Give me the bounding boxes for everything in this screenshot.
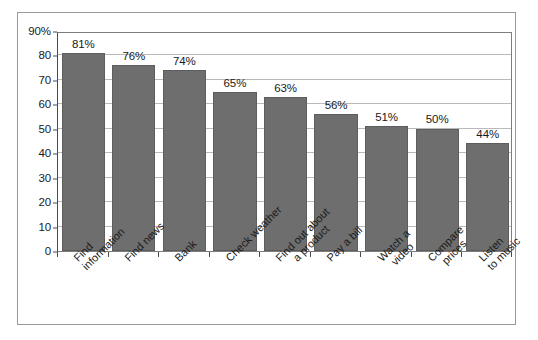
bar-value-label: 76% — [112, 51, 155, 63]
bar-value-label: 56% — [314, 100, 357, 112]
y-axis-tick-label: 70 — [38, 75, 51, 87]
y-axis-tick-label: 80 — [38, 51, 51, 63]
y-axis: 0102030405060708090% — [17, 32, 57, 252]
bar-value-label: 50% — [416, 114, 459, 126]
bar — [163, 70, 206, 251]
bar-series: 81%76%74%65%63%56%51%50%44% — [58, 33, 511, 251]
bar-column: 65% — [213, 33, 256, 251]
bar-value-label: 81% — [62, 39, 105, 51]
y-axis-tick-label: 0 — [45, 246, 51, 258]
bar-column: 74% — [163, 33, 206, 251]
y-axis-tick-label: 50 — [38, 124, 51, 136]
y-axis-tick-label: 20 — [38, 197, 51, 209]
y-axis-tick-label: 90% — [28, 26, 51, 38]
y-axis-tick-label: 40 — [38, 148, 51, 160]
y-axis-tick-label: 10 — [38, 222, 51, 234]
bar-value-label: 65% — [213, 78, 256, 90]
y-axis-tick-label: 60 — [38, 100, 51, 112]
bar — [62, 53, 105, 251]
x-axis-labels: FindinformationFind newsBankCheck weathe… — [57, 256, 512, 322]
bar-column: 51% — [365, 33, 408, 251]
bar-column: 44% — [466, 33, 509, 251]
bar-value-label: 63% — [264, 83, 307, 95]
bar-chart-figure: 0102030405060708090% 81%76%74%65%63%56%5… — [0, 0, 538, 340]
bar — [112, 65, 155, 251]
y-axis-tick-label: 30 — [38, 173, 51, 185]
plot-area: 81%76%74%65%63%56%51%50%44% — [57, 32, 512, 252]
bar-value-label: 74% — [163, 56, 206, 68]
bar-value-label: 51% — [365, 112, 408, 124]
bar-column: 81% — [62, 33, 105, 251]
bar-value-label: 44% — [466, 129, 509, 141]
bar-column: 76% — [112, 33, 155, 251]
bar-column: 50% — [416, 33, 459, 251]
